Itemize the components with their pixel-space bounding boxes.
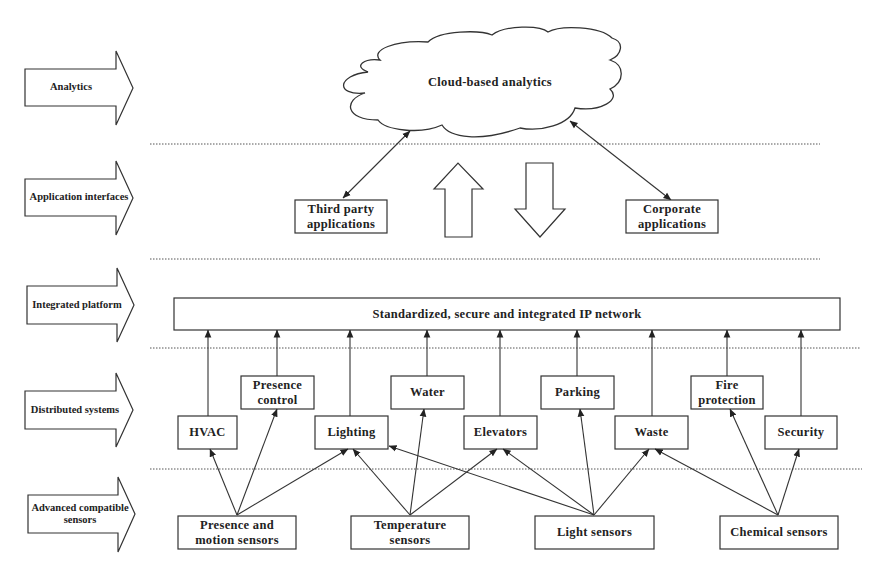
arrow-presence-hvac [210,449,237,515]
presence-control-label: Presence control [246,376,309,409]
arrow-temperature-elevators [410,449,497,515]
layer-label-sensors: Advanced compatible sensors [30,495,130,533]
lighting-label: Lighting [315,416,388,449]
layer-label-app-interfaces: Application interfaces [25,179,133,216]
cloud-label: Cloud-based analytics [400,70,580,94]
arrow-presence-lighting [237,449,348,515]
arrow-light-parking [580,409,594,515]
presence-motion-sensors-label: Presence and motion sensors [188,516,286,549]
hvac-label: HVAC [178,416,237,449]
third-party-applications-label: Third party applications [305,200,377,233]
ip-network-label: Standardized, secure and integrated IP n… [174,298,840,330]
arrow-light-elevators [503,449,594,515]
water-label: Water [391,376,464,409]
arrow-cloud-corporate [570,121,671,200]
big-down-arrow [515,163,565,237]
layer-label-distributed-systems: Distributed systems [25,391,125,429]
arrow-temperature-water [410,409,424,515]
layer-label-integrated-platform: Integrated platform [27,286,127,324]
security-label: Security [765,416,837,449]
arrow-chemical-waste [655,449,778,515]
arrow-light-lighting [389,446,594,515]
arrow-presence-presencecontrol [237,409,277,515]
arrow-chemical-security [778,449,799,515]
parking-label: Parking [541,376,614,409]
corporate-applications-label: Corporate applications [636,200,708,233]
fire-protection-label: Fire protection [691,376,763,409]
temperature-sensors-label: Temperature sensors [361,516,459,549]
light-sensors-label: Light sensors [535,516,654,549]
chemical-sensors-label: Chemical sensors [720,516,838,549]
waste-label: Waste [615,416,688,449]
arrow-light-waste [594,449,649,515]
arrow-cloud-thirdparty [343,131,410,198]
elevators-label: Elevators [464,416,537,449]
layer-label-analytics: Analytics [25,69,117,106]
arrow-temperature-lighting [353,449,410,515]
big-up-arrow [434,163,483,237]
